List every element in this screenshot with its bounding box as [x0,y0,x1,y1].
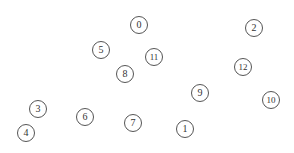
node-label: 4 [24,128,29,138]
node-label: 2 [252,23,257,33]
node-label: 3 [36,104,41,114]
node-8: 8 [116,65,134,83]
node-3: 3 [29,100,47,118]
node-label: 5 [99,45,104,55]
node-label: 6 [83,112,88,122]
node-label: 8 [123,69,128,79]
node-label: 7 [131,118,136,128]
node-0: 0 [130,16,148,34]
node-label: 1 [183,124,188,134]
node-1: 1 [176,120,194,138]
node-label: 10 [267,96,276,105]
node-12: 12 [234,58,252,76]
node-7: 7 [124,114,142,132]
node-4: 4 [17,124,35,142]
node-10: 10 [262,91,280,109]
node-2: 2 [245,19,263,37]
node-9: 9 [191,84,209,102]
node-11: 11 [145,48,163,66]
node-6: 6 [76,108,94,126]
node-label: 0 [137,20,142,30]
node-5: 5 [92,41,110,59]
diagram-canvas: 0 1 2 3 4 5 6 7 8 9 10 11 12 [0,0,294,153]
node-label: 11 [150,53,159,62]
node-label: 12 [239,63,248,72]
node-label: 9 [198,88,203,98]
